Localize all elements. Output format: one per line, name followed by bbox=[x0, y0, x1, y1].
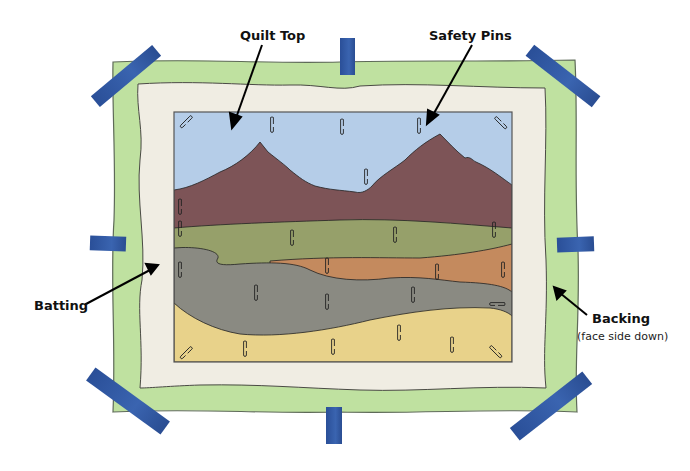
quilt-basting-diagram: Quilt Top Safety Pins Batting Backing (f… bbox=[0, 0, 690, 471]
label-safety-pins: Safety Pins bbox=[429, 28, 512, 43]
label-batting: Batting bbox=[34, 298, 88, 313]
quilt-top bbox=[174, 112, 512, 362]
tape-left bbox=[90, 235, 127, 251]
label-backing-note: (face side down) bbox=[577, 330, 668, 343]
tape-top-center bbox=[340, 38, 355, 75]
label-backing: Backing bbox=[592, 311, 650, 326]
label-quilt-top: Quilt Top bbox=[240, 28, 305, 43]
tape-right bbox=[557, 236, 595, 252]
tape-bottom-center bbox=[326, 407, 342, 444]
